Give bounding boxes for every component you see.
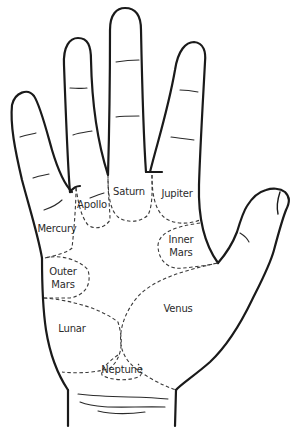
ring-finger-outline: [64, 38, 108, 192]
mount-label-inner-mars: Inner Mars: [169, 233, 194, 259]
wrist-right: [175, 390, 176, 426]
thumb-outline: [176, 189, 289, 390]
little-finger-crease-1: [20, 133, 36, 137]
inner-mars-line1: Inner: [169, 233, 194, 246]
index-finger-crease-2: [171, 137, 194, 140]
little-finger-crease-2: [33, 174, 49, 178]
middle-finger-crease-2: [116, 116, 139, 117]
mount-label-saturn: Saturn: [113, 185, 145, 198]
thumb-nail: [277, 192, 280, 214]
wrist-crease-2: [80, 402, 165, 407]
wrist-crease-3: [98, 411, 145, 414]
index-finger-outline: [150, 42, 218, 263]
little-finger-crease-3: [44, 200, 62, 210]
mount-label-apollo: Apollo: [77, 198, 107, 211]
thumb-knuckle: [240, 233, 249, 242]
ring-finger-base: [70, 186, 80, 192]
mount-label-venus: Venus: [163, 302, 192, 315]
outer-mars-line1: Outer: [49, 265, 76, 278]
index-finger-crease-1: [180, 90, 198, 92]
ring-finger-crease-2: [73, 131, 92, 135]
mount-label-mercury: Mercury: [37, 222, 76, 235]
middle-finger-outline: [108, 8, 146, 175]
mount-label-lunar: Lunar: [58, 322, 85, 335]
inner-mars-line2: Mars: [169, 246, 194, 259]
wrist-crease-1: [78, 394, 168, 399]
outer-mars-line2: Mars: [49, 278, 76, 291]
hand-diagram: [0, 0, 295, 437]
saturn-mount-border: [108, 175, 152, 221]
mount-label-neptune: Neptune: [101, 363, 142, 376]
mount-label-outer-mars: Outer Mars: [49, 265, 76, 291]
middle-finger-crease-1: [116, 60, 139, 62]
mount-label-jupiter: Jupiter: [161, 187, 192, 200]
